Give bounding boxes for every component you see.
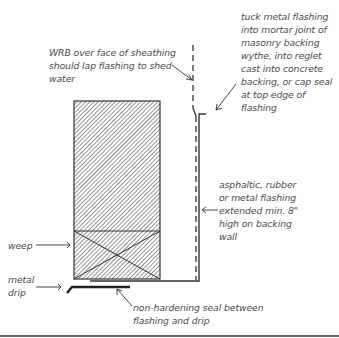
label-line: tuck metal flashing [241, 10, 332, 23]
label-line: metal [8, 273, 34, 286]
label-wrb: WRB over face of sheathing should lap fl… [49, 46, 176, 85]
label-line: masonry backing [241, 36, 332, 49]
label-line: weep [8, 239, 33, 252]
label-line: cast into concrete [241, 62, 332, 75]
label-seal: non-hardening seal between flashing and … [133, 301, 264, 327]
label-line: should lap flashing to shed [49, 59, 176, 72]
label-line: backing, or cap seal [241, 75, 332, 88]
label-line: at top edge of [241, 88, 332, 101]
label-line: flashing and drip [133, 314, 264, 327]
label-tuck-flashing: tuck metal flashing into mortar joint of… [241, 10, 332, 114]
label-line: flashing [241, 101, 332, 114]
wrb-dashed-line [193, 45, 196, 280]
label-line: high on backing [219, 217, 298, 230]
label-weep: weep [8, 239, 33, 252]
label-line: or metal flashing [219, 191, 298, 204]
label-line: non-hardening seal between [133, 301, 264, 314]
label-line: extended min. 8" [219, 204, 298, 217]
label-line: asphaltic, rubber [219, 178, 298, 191]
label-line: wall [219, 230, 298, 243]
label-line: drip [8, 286, 34, 299]
label-flashing: asphaltic, rubber or metal flashing exte… [219, 178, 298, 243]
label-metal-drip: metal drip [8, 273, 34, 299]
label-line: WRB over face of sheathing [49, 46, 176, 59]
label-line: water [49, 72, 176, 85]
label-line: into mortar joint of [241, 23, 332, 36]
masonry-veneer [74, 101, 160, 279]
label-line: wythe, into reglet [241, 49, 332, 62]
